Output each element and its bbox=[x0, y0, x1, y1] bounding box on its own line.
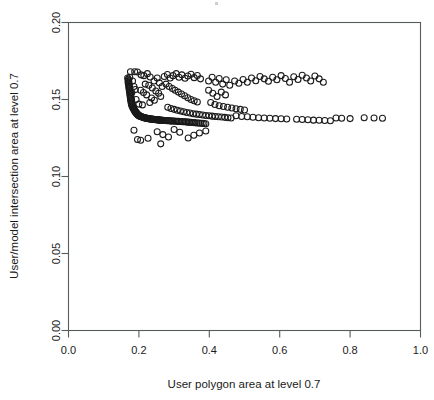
data-point bbox=[177, 129, 183, 135]
data-point bbox=[287, 79, 293, 85]
data-point bbox=[261, 115, 267, 121]
data-point bbox=[379, 115, 385, 121]
data-point bbox=[203, 128, 209, 134]
x-axis-ticks: 0.00.20.40.60.81.0 bbox=[61, 331, 428, 356]
data-point bbox=[206, 78, 212, 84]
data-point bbox=[256, 115, 262, 121]
data-point bbox=[158, 141, 164, 147]
data-point bbox=[185, 135, 191, 141]
data-point bbox=[223, 77, 229, 83]
y-tick-label: 0.15 bbox=[50, 89, 62, 110]
data-point bbox=[142, 81, 148, 87]
x-tick-label: 1.0 bbox=[413, 344, 428, 356]
x-tick-label: 0.0 bbox=[61, 344, 76, 356]
y-tick-label: 0.05 bbox=[50, 243, 62, 264]
data-point bbox=[242, 107, 248, 113]
data-point bbox=[145, 135, 151, 141]
data-point bbox=[139, 102, 145, 108]
data-point bbox=[278, 116, 284, 122]
chart-canvas: 0.00.20.40.60.81.0 0.000.050.100.150.20 … bbox=[0, 0, 434, 400]
data-point bbox=[327, 118, 333, 124]
data-point bbox=[316, 117, 322, 123]
plot-frame bbox=[69, 23, 421, 331]
data-point bbox=[244, 114, 250, 120]
data-point bbox=[206, 87, 212, 93]
x-tick-label: 0.6 bbox=[272, 344, 287, 356]
data-point bbox=[213, 79, 219, 85]
y-axis-ticks: 0.000.050.100.150.20 bbox=[50, 12, 69, 341]
data-point bbox=[310, 117, 316, 123]
x-axis-title: User polygon area at level 0.7 bbox=[168, 378, 321, 390]
data-point bbox=[233, 113, 239, 119]
data-point bbox=[308, 78, 314, 84]
x-tick-label: 0.4 bbox=[202, 344, 217, 356]
y-tick-label: 0.00 bbox=[50, 320, 62, 341]
data-point bbox=[294, 116, 300, 122]
y-tick-label: 0.10 bbox=[50, 166, 62, 187]
data-point bbox=[320, 79, 326, 85]
data-point bbox=[171, 127, 177, 133]
data-point bbox=[339, 115, 345, 121]
data-point bbox=[250, 114, 256, 120]
data-points-layer bbox=[125, 69, 386, 147]
data-point bbox=[371, 115, 377, 121]
data-point bbox=[191, 132, 197, 138]
data-point bbox=[347, 116, 353, 122]
data-point bbox=[154, 129, 160, 135]
x-tick-label: 0.8 bbox=[342, 344, 357, 356]
data-point bbox=[210, 90, 216, 96]
data-point bbox=[299, 117, 305, 123]
data-point bbox=[196, 130, 202, 136]
data-point bbox=[165, 134, 171, 140]
y-axis-title: User/model intersection area at level 0.… bbox=[8, 73, 20, 279]
scatter-plot-figure: 0.00.20.40.60.81.0 0.000.050.100.150.20 … bbox=[0, 0, 434, 400]
data-point bbox=[278, 73, 284, 79]
scan-artifact bbox=[215, 2, 218, 5]
data-point bbox=[284, 116, 290, 122]
data-point bbox=[305, 117, 311, 123]
data-point bbox=[239, 113, 245, 119]
data-point bbox=[227, 82, 233, 88]
data-point bbox=[272, 116, 278, 122]
y-tick-label: 0.20 bbox=[50, 12, 62, 33]
data-point bbox=[322, 117, 328, 123]
data-point bbox=[131, 127, 137, 133]
x-tick-label: 0.2 bbox=[131, 344, 146, 356]
data-point bbox=[333, 115, 339, 121]
data-point bbox=[361, 115, 367, 121]
data-point bbox=[160, 132, 166, 138]
data-point bbox=[216, 76, 222, 82]
data-point bbox=[267, 115, 273, 121]
